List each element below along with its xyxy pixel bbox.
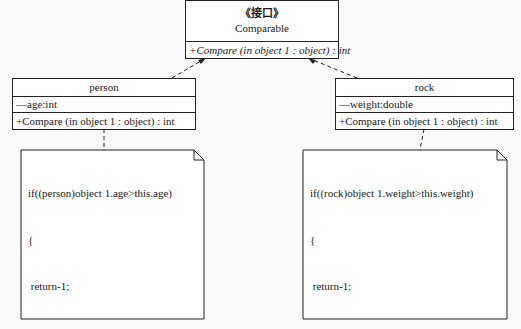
note-line: { — [310, 233, 492, 249]
class-rock-attribute: —weight:double — [336, 96, 513, 112]
note-line: } — [28, 326, 188, 329]
class-person-attribute: —age:int — [13, 96, 195, 112]
note-line: return-1; — [28, 279, 188, 295]
interface-stereotype: 《接口》 — [189, 6, 335, 21]
class-person[interactable]: person —age:int +Compare (in object 1 : … — [12, 78, 196, 130]
rock-compare-note: if((rock)object 1.weight>this.weight) { … — [304, 152, 498, 318]
note-line: if((rock)object 1.weight>this.weight) — [310, 186, 492, 202]
class-rock-name: rock — [336, 79, 513, 96]
rock-realization-line — [308, 58, 357, 78]
interface-comparable[interactable]: 《接口》 Comparable +Compare (in object 1 : … — [185, 0, 339, 59]
note-line: return-1; — [310, 279, 492, 295]
interface-name: Comparable — [189, 21, 335, 36]
note-line: { — [28, 233, 188, 249]
note-line: if((person)object 1.age>this.age) — [28, 186, 188, 202]
class-rock-operation: +Compare (in object 1 : object) : int — [336, 112, 513, 129]
note-line: } — [310, 326, 492, 329]
class-person-operation: +Compare (in object 1 : object) : int — [13, 112, 195, 129]
class-rock[interactable]: rock —weight:double +Compare (in object … — [335, 78, 514, 130]
class-person-name: person — [13, 79, 195, 96]
rock-note-anchor — [420, 129, 424, 150]
interface-operation: +Compare (in object 1 : object) : int — [186, 41, 338, 59]
person-compare-note: if((person)object 1.age>this.age) { retu… — [22, 152, 194, 318]
